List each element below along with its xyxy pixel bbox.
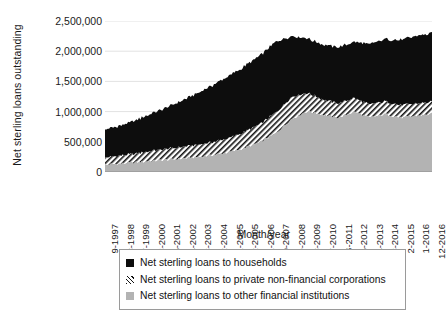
x-axis-tick-label: 12-2016 [436,224,447,259]
y-axis-tick-label: 2,000,000 [30,45,102,57]
y-axis-title: Net sterling loans outstanding [8,0,26,190]
plot-svg [105,21,432,172]
gray-square-icon [126,292,134,300]
x-axis-title: Month/year [150,228,290,240]
y-axis-ticks: 0500,0001,000,0001,500,0002,000,0002,500… [26,0,102,200]
y-axis-tick-label: 0 [30,166,102,178]
black-square-icon [126,259,134,267]
legend-item[interactable]: Net sterling loans to households [126,257,399,270]
plot-area [105,21,432,172]
x-axis-ticks: 9-19978-19987-19996-20005-20014-20023-20… [105,174,432,226]
legend-item-label: Net sterling loans to other financial in… [140,290,349,303]
legend-item[interactable]: Net sterling loans to private non-financ… [126,274,399,287]
area-series-group [105,32,432,172]
legend-item[interactable]: Net sterling loans to other financial in… [126,290,399,303]
x-axis-tick-label: 2-2015 [405,224,416,254]
y-axis-tick-label: 1,500,000 [30,75,102,87]
legend-item-label: Net sterling loans to households [140,257,287,270]
hatched-square-icon [126,276,134,284]
y-axis-tick-label: 1,000,000 [30,106,102,118]
x-axis-tick-label: 1-2016 [420,224,431,254]
legend-item-label: Net sterling loans to private non-financ… [140,274,386,287]
y-axis-tick-label: 500,000 [30,136,102,148]
chart-legend: Net sterling loans to householdsNet ster… [119,249,406,310]
y-axis-tick-label: 2,500,000 [30,15,102,27]
